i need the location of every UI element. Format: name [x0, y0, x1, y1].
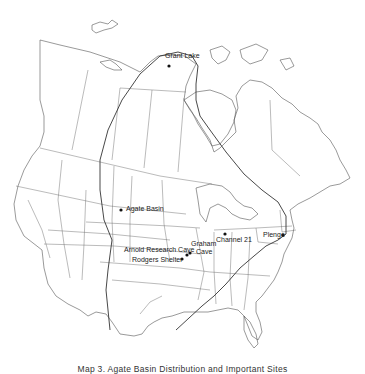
site-marker-grant-lake[interactable]	[167, 64, 170, 67]
site-marker-agate-basin[interactable]	[119, 208, 122, 211]
state-border	[244, 236, 250, 310]
province-border	[144, 90, 152, 168]
province-border	[270, 100, 300, 176]
continent-outline	[14, 40, 350, 340]
site-label-graham-cave-line2: Cave	[196, 248, 212, 256]
site-label-arnold-research-cave: Arnold Research Cave	[124, 246, 194, 254]
province-border	[72, 70, 88, 150]
site-label-channel-21: Channel 21	[216, 236, 252, 244]
site-label-rodgers-shelter: Rodgers Shelter	[132, 256, 183, 264]
province-border	[112, 88, 120, 160]
state-border	[112, 166, 114, 262]
arctic-island	[280, 58, 294, 70]
hudson-bay	[184, 90, 236, 146]
site-label-plenge: Plenge	[263, 231, 285, 239]
site-label-grant-lake: Grant Lake	[165, 52, 200, 60]
arctic-island	[92, 20, 118, 33]
site-label-graham-cave-line1: Graham	[191, 240, 216, 248]
state-border	[86, 222, 200, 228]
state-border	[82, 190, 86, 280]
state-border	[58, 160, 70, 278]
state-border	[214, 226, 292, 230]
arctic-island	[210, 46, 230, 64]
arctic-island	[240, 44, 268, 64]
state-border	[112, 280, 210, 290]
site-label-agate-basin: Agate Basin	[126, 205, 164, 213]
province-border	[40, 148, 212, 184]
great-lakes	[196, 184, 258, 222]
map-caption: Map 3. Agate Basin Distribution and Impo…	[0, 364, 365, 374]
province-border	[178, 98, 184, 172]
state-border	[140, 296, 162, 314]
state-border	[28, 200, 50, 258]
